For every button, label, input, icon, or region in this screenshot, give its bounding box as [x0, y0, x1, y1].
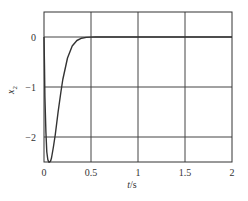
- x-axis-label: t/s: [127, 179, 137, 190]
- y-axis-ticks: 0−1−2: [25, 32, 36, 143]
- x-tick-label: 2: [230, 167, 235, 178]
- y-tick-label: −2: [25, 132, 36, 143]
- grid-lines: [44, 12, 232, 162]
- x-tick-label: 1: [136, 167, 141, 178]
- x-tick-label: 0: [42, 167, 47, 178]
- x-tick-label: 0.5: [85, 167, 98, 178]
- x-axis-ticks: 00.511.52: [42, 167, 235, 178]
- y-tick-label: 0: [31, 32, 36, 43]
- y-axis-label: x2: [5, 86, 19, 95]
- line-chart: 00.511.52 0−1−2 t/s x2: [0, 0, 248, 201]
- x-tick-label: 1.5: [179, 167, 192, 178]
- y-tick-label: −1: [25, 82, 36, 93]
